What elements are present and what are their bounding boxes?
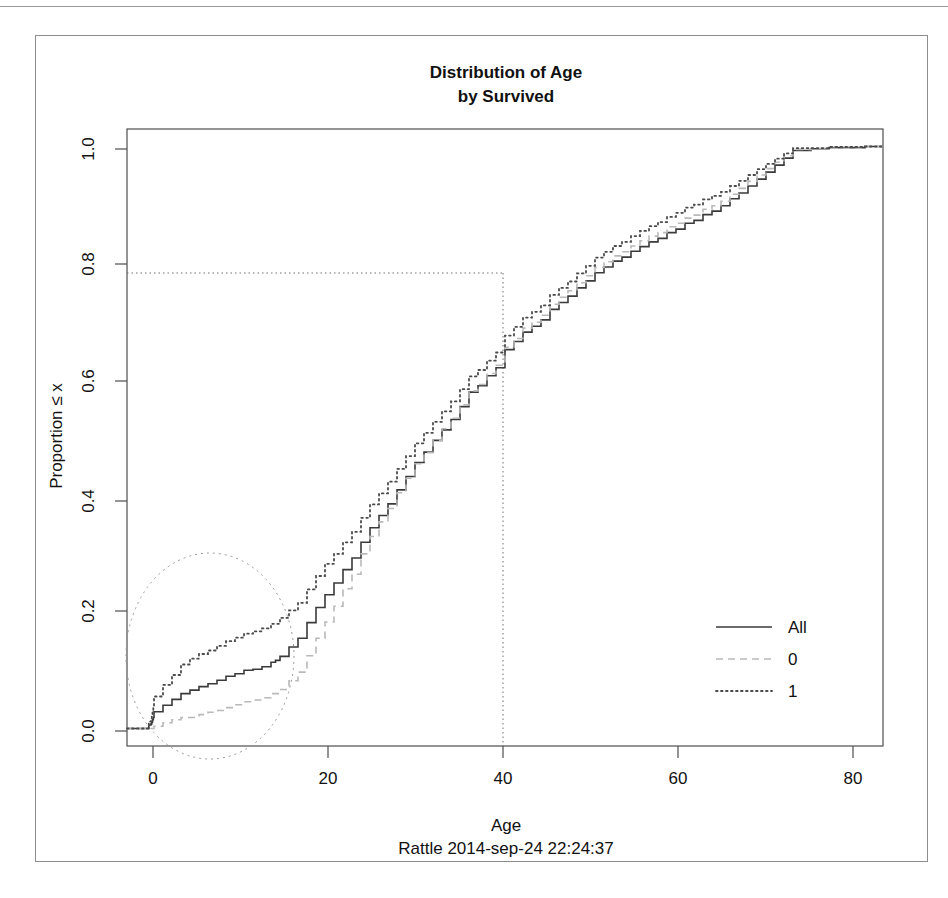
y-tick-label-0.6: 0.6 <box>79 369 98 393</box>
legend: All 0 1 <box>716 618 807 701</box>
y-tick-labels: 0.0 0.2 0.4 0.6 0.8 1.0 <box>79 137 98 743</box>
document-page: Distribution of Age by Survived 0 20 40 … <box>0 0 948 898</box>
chart-title: Distribution of Age <box>430 63 582 82</box>
ecdf-chart: Distribution of Age by Survived 0 20 40 … <box>36 36 927 861</box>
plot-device-frame: Distribution of Age by Survived 0 20 40 … <box>35 35 928 862</box>
series-line-all <box>127 147 883 729</box>
legend-label-0: 0 <box>788 650 797 669</box>
x-tick-labels: 0 20 40 60 80 <box>148 769 862 788</box>
plot-frame <box>127 129 883 746</box>
y-tick-label-0.4: 0.4 <box>79 489 98 513</box>
legend-label-1: 1 <box>788 682 797 701</box>
y-axis <box>115 149 127 731</box>
x-tick-label-80: 80 <box>844 769 863 788</box>
y-tick-label-1.0: 1.0 <box>79 137 98 161</box>
x-axis <box>153 746 853 758</box>
chart-subtitle: by Survived <box>458 87 554 106</box>
x-axis-title: Age <box>491 816 521 835</box>
series-line-0 <box>127 147 883 729</box>
y-tick-label-0.8: 0.8 <box>79 252 98 276</box>
x-tick-label-60: 60 <box>669 769 688 788</box>
chart-caption: Rattle 2014-sep-24 22:24:37 <box>398 839 614 858</box>
legend-label-all: All <box>788 618 807 637</box>
y-tick-label-0.2: 0.2 <box>79 599 98 623</box>
x-tick-label-20: 20 <box>319 769 338 788</box>
y-axis-title: Proportion ≤ x <box>47 383 66 489</box>
x-tick-label-0: 0 <box>148 769 157 788</box>
y-tick-label-0.0: 0.0 <box>79 719 98 743</box>
x-tick-label-40: 40 <box>494 769 513 788</box>
reference-crosshair <box>127 273 503 746</box>
page-top-rule <box>0 6 948 7</box>
series-line-1 <box>127 147 883 729</box>
